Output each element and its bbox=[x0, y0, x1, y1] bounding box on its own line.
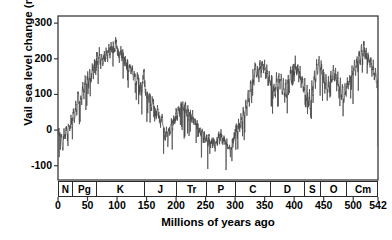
period-cell-tr: Tr bbox=[177, 182, 207, 196]
x-tick-label: 200 bbox=[167, 199, 185, 211]
period-cell-o: O bbox=[321, 182, 347, 196]
x-tick-label: 400 bbox=[285, 199, 303, 211]
geologic-period-bar: NPgKJTrPCDSOCm bbox=[58, 181, 378, 197]
vail-sea-level-chart: Vail sea level change (m) 3002001000-100… bbox=[0, 0, 392, 240]
x-tick-label: 300 bbox=[226, 199, 244, 211]
period-cell-j: J bbox=[145, 182, 177, 196]
x-tick-label: 500 bbox=[344, 199, 362, 211]
period-cell-n: N bbox=[59, 182, 73, 196]
period-cell-k: K bbox=[97, 182, 144, 196]
x-tick-label: 450 bbox=[315, 199, 333, 211]
x-axis-title: Millions of years ago bbox=[58, 216, 378, 228]
period-cell-c: C bbox=[236, 182, 271, 196]
period-cell-cm: Cm bbox=[347, 182, 379, 196]
x-tick-label: 150 bbox=[138, 199, 156, 211]
x-tick-label: 250 bbox=[197, 199, 215, 211]
plot-frame bbox=[58, 16, 378, 180]
period-cell-p: P bbox=[207, 182, 235, 196]
x-tick-label: 0 bbox=[55, 199, 61, 211]
x-tick-label: 542 bbox=[369, 199, 387, 211]
period-cell-pg: Pg bbox=[73, 182, 98, 196]
period-cell-s: S bbox=[305, 182, 322, 196]
period-cell-d: D bbox=[271, 182, 305, 196]
x-tick-label: 100 bbox=[108, 199, 126, 211]
x-tick-label: 50 bbox=[82, 199, 94, 211]
x-tick-label: 350 bbox=[256, 199, 274, 211]
x-axis-tick-labels: 050100150200250300350400450500542 bbox=[0, 199, 392, 215]
